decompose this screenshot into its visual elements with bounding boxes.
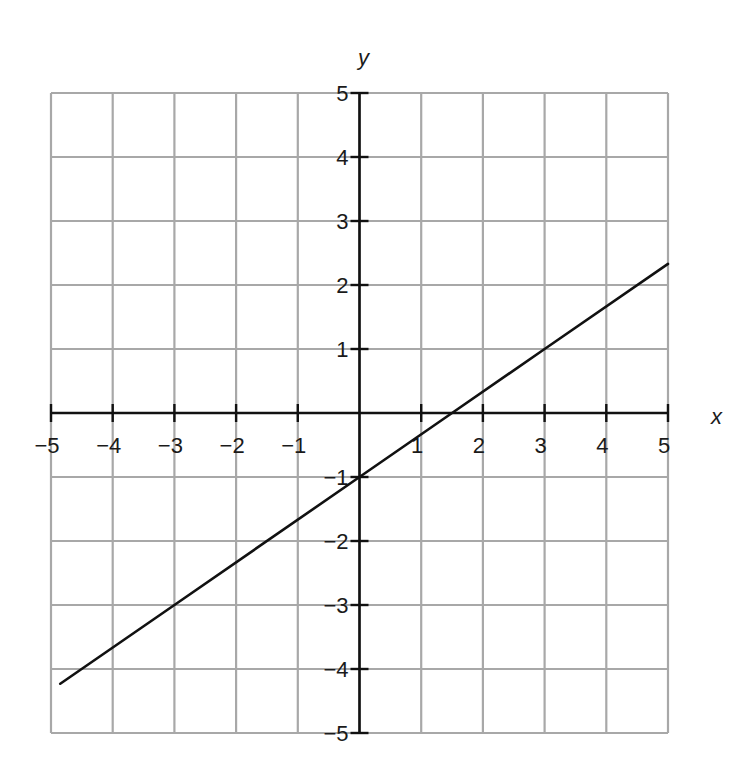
x-tick-label: 2: [473, 433, 485, 458]
x-tick-label: −4: [96, 433, 121, 458]
x-tick-label: −3: [158, 433, 183, 458]
x-tick-label: −5: [34, 433, 59, 458]
y-tick-label: 1: [336, 337, 348, 362]
y-tick-label: 2: [336, 273, 348, 298]
x-tick-label: 3: [534, 433, 546, 458]
axes: [51, 93, 668, 733]
x-tick-label: 5: [658, 433, 670, 458]
y-tick-label: −5: [323, 721, 348, 746]
x-tick-label: −2: [220, 433, 245, 458]
y-tick-label: 3: [336, 209, 348, 234]
y-tick-label: −2: [323, 529, 348, 554]
coordinate-plane: −5−4−3−2−11234554321−1−2−3−4−5 x y: [0, 0, 735, 783]
y-tick-label: 4: [336, 145, 348, 170]
x-tick-label: −1: [281, 433, 306, 458]
plotted-line: [60, 264, 668, 684]
x-axis-label: x: [710, 404, 723, 429]
y-tick-label: −3: [323, 593, 348, 618]
x-tick-label: 4: [596, 433, 608, 458]
line-series: [60, 264, 668, 684]
y-tick-label: 5: [336, 81, 348, 106]
y-tick-label: −4: [323, 657, 348, 682]
y-axis-label: y: [356, 45, 371, 70]
